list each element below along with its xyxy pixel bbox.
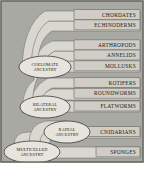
- taxon-label-flatworms: FLATWORMS: [74, 101, 140, 111]
- taxon-label-text: ARTHROPODS: [98, 42, 136, 48]
- ancestry-label-line1: COELOMATE: [32, 62, 59, 67]
- ancestry-label-line2: ANCESTRY: [33, 107, 56, 112]
- taxon-label-annelids: ANNELIDS: [74, 50, 140, 60]
- taxon-label-text: CNIDARIANS: [100, 129, 136, 135]
- ancestry-label-line2: ANCESTRY: [20, 152, 43, 157]
- taxon-label-text: ANNELIDS: [107, 52, 136, 58]
- ancestry-node-coelomate: COELOMATE ANCESTRY: [19, 56, 71, 78]
- taxon-label-roundworms: ROUNDWORMS: [74, 88, 140, 98]
- taxon-label-echinoderms: ECHINODERMS: [74, 20, 140, 30]
- ancestry-label-line2: ANCESTRY: [55, 132, 78, 137]
- taxon-label-cnidarians: CNIDARIANS: [88, 127, 140, 137]
- taxon-label-mollusks: MOLLUSKS: [74, 61, 140, 71]
- taxon-label-rotifers: ROTIFERS: [74, 78, 140, 88]
- taxon-label-text: MOLLUSKS: [105, 63, 136, 69]
- taxon-label-chordates: CHORDATES: [74, 10, 140, 20]
- ancestry-node-radial: RADIAL ANCESTRY: [44, 121, 90, 143]
- phylogenetic-tree-figure: CHORDATES ECHINODERMS ARTHROPODS ANNELID…: [0, 0, 144, 172]
- ancestry-label-line1: RADIAL: [59, 127, 76, 132]
- taxon-label-text: ROTIFERS: [109, 80, 136, 86]
- taxon-label-text: ECHINODERMS: [94, 22, 136, 28]
- taxon-label-text: FLATWORMS: [101, 103, 137, 109]
- ancestry-label-line1: MULTICELLED: [17, 147, 48, 152]
- diagram-canvas: CHORDATES ECHINODERMS ARTHROPODS ANNELID…: [0, 0, 144, 172]
- ancestry-label-line2: ANCESTRY: [33, 67, 56, 72]
- ancestry-node-multicelled: MULTICELLED ANCESTRY: [4, 141, 60, 163]
- taxon-label-arthropods: ARTHROPODS: [74, 40, 140, 50]
- ancestry-label-line1: BILATERAL: [33, 102, 58, 107]
- taxon-label-text: CHORDATES: [102, 12, 136, 18]
- taxon-label-text: SPONGES: [110, 149, 136, 155]
- ancestry-node-bilateral: BILATERAL ANCESTRY: [20, 96, 70, 118]
- taxon-label-sponges: SPONGES: [96, 147, 140, 157]
- taxon-label-text: ROUNDWORMS: [94, 90, 136, 96]
